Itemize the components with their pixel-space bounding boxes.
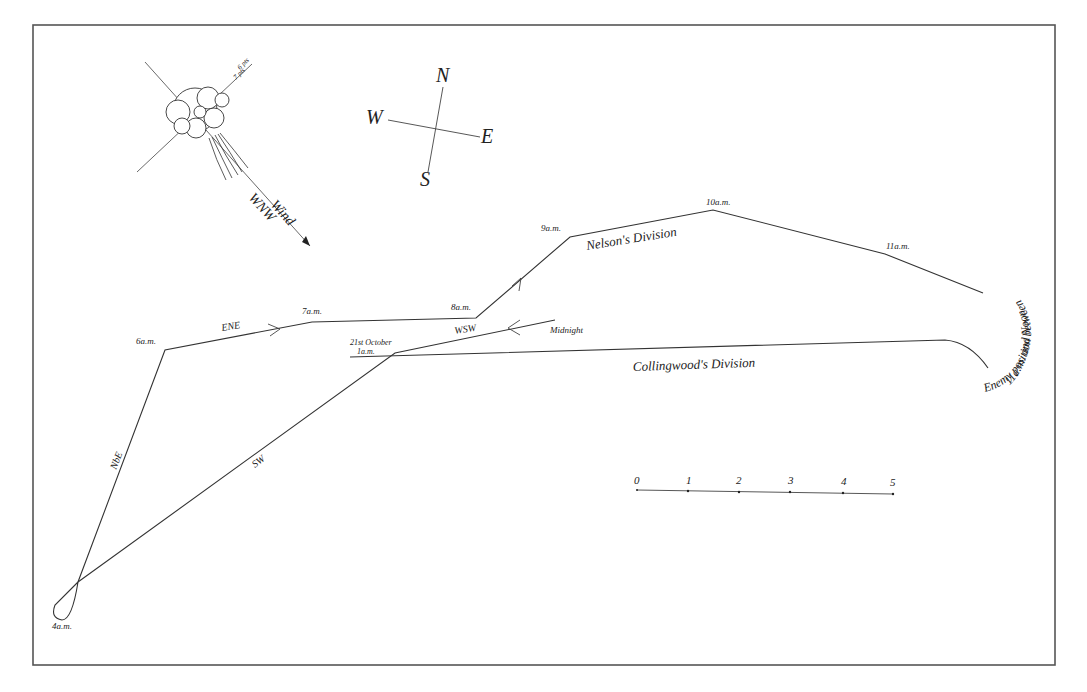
nelson-division-label: Nelson's Division xyxy=(584,224,677,253)
time-label-10am: 10a.m. xyxy=(706,197,731,207)
heading-wsw: WSW xyxy=(454,321,479,336)
enemy-position-label-2: 11a.m. and Noon xyxy=(1001,308,1032,387)
scale-tick-1: 1 xyxy=(686,474,692,486)
scale-tick-4: 4 xyxy=(841,475,847,487)
compass-west: W xyxy=(366,106,385,128)
time-label-4am: 4a.m. xyxy=(52,621,72,631)
time-label-8am: 8a.m. xyxy=(451,302,471,312)
start-time-label: 1a.m. xyxy=(357,347,375,356)
collingwood-division-label: Collingwood's Division xyxy=(633,355,756,374)
scale-tick-0: 0 xyxy=(634,474,640,486)
wind-flag-7pts: 7 pts xyxy=(232,66,247,81)
compass-south: S xyxy=(420,168,430,190)
time-label-9am: 9a.m. xyxy=(541,223,561,233)
time-label-11am: 11a.m. xyxy=(886,241,910,251)
collingwood-track xyxy=(78,320,988,582)
compass-north: N xyxy=(435,64,451,86)
scale-tick-3: 3 xyxy=(787,474,794,486)
heading-ene: ENE xyxy=(220,319,241,333)
start-date-label: 21st October xyxy=(350,338,392,347)
compass-rose-icon: N W E S xyxy=(366,64,493,190)
nelson-track xyxy=(54,210,983,620)
scale-tick-5: 5 xyxy=(890,476,896,488)
scale-tick-2: 2 xyxy=(736,474,742,486)
enemy-position-line2: 11a.m. and Noon xyxy=(1001,308,1032,387)
heading-nbe: NbE xyxy=(107,450,124,472)
compass-east: E xyxy=(480,125,493,147)
time-label-7am: 7a.m. xyxy=(302,306,322,316)
heading-sw: SW xyxy=(249,452,268,470)
midnight-label: Midnight xyxy=(549,325,583,335)
time-label-6am: 6a.m. xyxy=(136,336,156,346)
wind-vane-icon: 6 pts 7 pts Wind WNW xyxy=(137,56,310,246)
map-canvas: 6 pts 7 pts Wind WNW N W E S 4a.m. 6a.m.… xyxy=(0,0,1087,692)
scale-bar: 0 1 2 3 4 5 xyxy=(634,474,896,495)
